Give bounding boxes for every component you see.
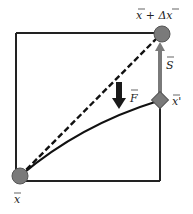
start-node <box>12 168 28 184</box>
intermediate-label: x' <box>172 95 181 108</box>
curved-path <box>20 101 158 176</box>
diagram-canvas: x + Δx S F x' x <box>0 0 193 214</box>
start-label: x <box>14 193 21 206</box>
correction-arrow <box>155 42 165 96</box>
label-start: x <box>14 193 21 206</box>
correction-label: S <box>166 59 174 72</box>
end-label: x + Δx <box>136 9 173 22</box>
label-intermediate: x' <box>172 95 181 108</box>
label-force: F <box>129 90 138 105</box>
intermediate-node <box>152 92 169 109</box>
end-node <box>154 26 170 42</box>
direct-path <box>20 38 157 176</box>
label-correction: S <box>166 57 174 72</box>
force-label: F <box>129 92 138 105</box>
force-arrow <box>112 82 126 109</box>
label-end: x + Δx <box>136 9 179 22</box>
